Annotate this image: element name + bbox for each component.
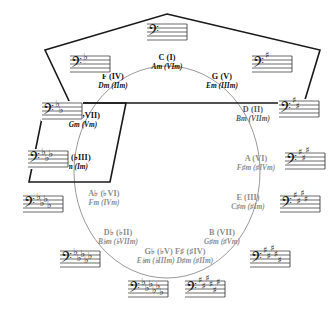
major-key-name: D (II) [236,105,270,114]
major-key-name: B (VII) [204,228,240,237]
bass-clef-icon: 𝄢 [24,194,35,214]
relative-minor-key-name: Bm (VIIm) [236,115,270,123]
key-signature-staff-f[interactable]: 𝄢♭ [68,50,112,80]
key-label-b[interactable]: B (VII)G♯m (♯Vm) [204,228,240,246]
major-key-name: C (I) [151,53,182,62]
key-signature-staff-ab[interactable]: 𝄢♭♭♭♭ [21,190,65,220]
sharp-accidental-icon: ♯ [216,277,220,287]
bass-clef-icon: 𝄢 [148,22,159,42]
key-label-e[interactable]: E (III)C♯m (♯Im) [231,193,264,211]
key-signature-staff-gb[interactable]: 𝄢♭♭♭♭♭♭ [126,275,170,305]
major-key-name: G (V) [206,72,238,81]
bass-clef-icon: 𝄢 [253,54,264,74]
key-label-a[interactable]: A (VI)F♯m (♯IVm) [237,154,275,172]
relative-minor-key-name: E♭m (♭IIIm) D♯m (♯IIm) [137,257,213,265]
key-label-ab[interactable]: A♭ (♭VI)Fm (IVm) [88,189,119,207]
flat-accidental-icon: ♭ [159,286,164,297]
key-label-c[interactable]: C (I)Am (VIm) [151,53,182,71]
bass-clef-icon: 𝄢 [43,101,54,121]
bass-clef-icon: 𝄢 [29,149,40,169]
circle-of-fifths-diagram: C (I)Am (VIm)G (V)Em (IIIm)D (II)Bm (VII… [0,0,335,315]
bass-clef-icon: 𝄢 [280,99,291,119]
major-key-name: E (III) [231,193,264,202]
bass-clef-icon: 𝄢 [281,194,292,214]
relative-minor-key-name: Em (IIIm) [206,82,238,90]
major-key-name: D♭ (♭II) [98,228,138,237]
flat-accidental-icon: ♭ [48,148,53,159]
sharp-accidental-icon: ♯ [265,50,269,60]
key-signature-staff-e[interactable]: 𝄢♯♯♯♯ [278,190,322,220]
major-key-name: A (VI) [237,154,275,163]
key-signature-staff-fs[interactable]: 𝄢♯♯♯♯♯♯ [183,275,227,305]
sharp-accidental-icon: ♯ [296,101,300,111]
sharp-accidental-icon: ♯ [304,194,308,204]
key-signature-staff-bb[interactable]: 𝄢♭♭ [40,97,84,127]
bass-clef-icon: 𝄢 [286,151,297,171]
bass-clef-icon: 𝄢 [186,279,197,299]
relative-minor-key-name: C♯m (♯Im) [231,203,264,211]
bass-clef-icon: 𝄢 [71,54,82,74]
key-signature-staff-eb[interactable]: 𝄢♭♭♭ [26,145,70,175]
key-signature-staff-db[interactable]: 𝄢♭♭♭♭♭ [58,245,102,275]
key-signature-staff-g[interactable]: 𝄢♯ [250,50,294,80]
relative-minor-key-name: B♭m (♭VIIm) [98,238,138,246]
key-signature-staff-d[interactable]: 𝄢♯♯ [277,95,321,125]
flat-accidental-icon: ♭ [47,199,52,210]
key-label-db[interactable]: D♭ (♭II)B♭m (♭VIIm) [98,228,138,246]
key-signature-staff-a[interactable]: 𝄢♯♯♯ [283,147,327,177]
major-key-name: A♭ (♭VI) [88,189,119,198]
relative-minor-key-name: Dm (IIm) [98,82,127,90]
flat-accidental-icon: ♭ [59,104,64,115]
bass-clef-icon: 𝄢 [129,279,140,299]
relative-minor-key-name: G♯m (♯Vm) [204,238,240,246]
bass-clef-icon: 𝄢 [61,249,72,269]
major-key-name: G♭ (♭V) F♯ (♯IV) [137,247,213,256]
key-signature-staff-b[interactable]: 𝄢♯♯♯♯♯ [248,245,292,275]
key-label-g[interactable]: G (V)Em (IIIm) [206,72,238,90]
flat-accidental-icon: ♭ [87,250,92,261]
sharp-accidental-icon: ♯ [277,255,281,265]
relative-minor-key-name: Fm (IVm) [88,199,119,207]
relative-minor-key-name: Am (VIm) [151,63,182,71]
flat-accidental-icon: ♭ [83,51,88,62]
bass-clef-icon: 𝄢 [251,249,262,269]
key-label-gb-fs[interactable]: G♭ (♭V) F♯ (♯IV)E♭m (♭IIIm) D♯m (♯IIm) [137,247,213,265]
key-signature-staff-c[interactable]: 𝄢 [145,18,189,48]
sharp-accidental-icon: ♯ [305,147,309,155]
relative-minor-key-name: F♯m (♯IVm) [237,164,275,172]
key-label-d[interactable]: D (II)Bm (VIIm) [236,105,270,123]
